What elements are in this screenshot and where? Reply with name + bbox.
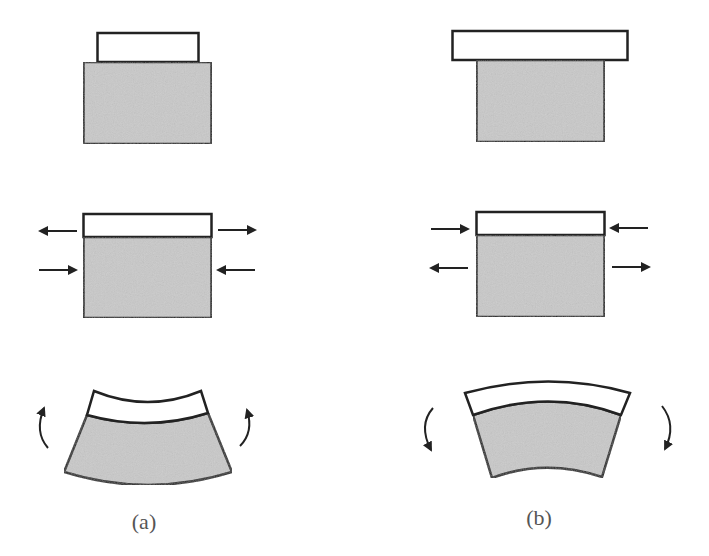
substrate-layer <box>84 237 212 318</box>
bilayer-stress-figure: (a) (b) <box>0 0 709 556</box>
moment-arrow-up-icon <box>40 408 48 448</box>
film-layer <box>453 31 628 60</box>
moment-arrow-down-icon <box>425 408 433 450</box>
panel-a-bent <box>40 391 250 485</box>
figure-drawing <box>0 0 709 556</box>
panel-b-bent <box>425 382 670 479</box>
caption-b: (b) <box>526 505 552 531</box>
panel-b <box>425 31 670 478</box>
film-layer <box>87 391 208 423</box>
panel-a <box>39 33 255 485</box>
film-layer <box>84 214 212 237</box>
substrate-layer <box>477 60 605 142</box>
film-layer <box>477 212 605 235</box>
caption-a: (a) <box>132 509 156 535</box>
substrate-layer <box>84 62 212 144</box>
moment-arrow-down-icon <box>662 406 670 449</box>
panel-b-forces <box>431 212 649 317</box>
substrate-layer <box>477 235 605 317</box>
film-layer <box>98 33 199 62</box>
substrate-layer <box>473 402 621 479</box>
moment-arrow-up-icon <box>240 410 249 446</box>
panel-a-unbonded <box>84 33 212 144</box>
panel-b-unbonded <box>453 31 628 142</box>
panel-a-forces <box>39 214 255 318</box>
